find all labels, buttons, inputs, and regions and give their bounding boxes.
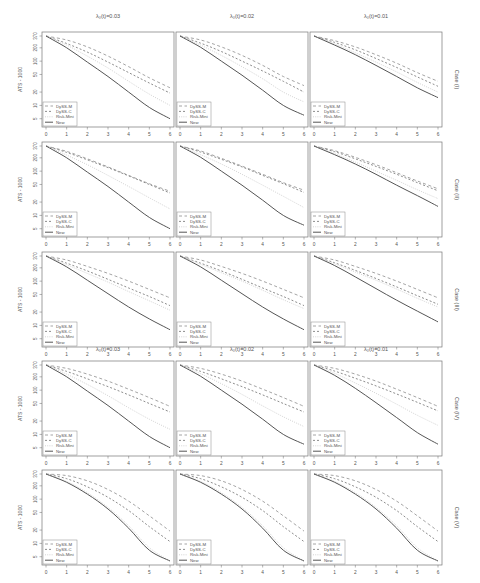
x-tick-label: 6 xyxy=(437,352,440,357)
legend-label: DySS-C xyxy=(324,329,340,334)
x-tick-label: 5 xyxy=(416,242,419,247)
x-tick-label: 3 xyxy=(241,132,244,137)
panel-r5-c3: 0123456Case (V)DySS-MDySS-CRisk-MiniNew xyxy=(310,470,460,575)
legend-label: DySS-M xyxy=(190,214,206,219)
x-tick-label: 5 xyxy=(416,352,419,357)
x-tick-label: 4 xyxy=(127,352,130,357)
legend-label: Risk-Mini xyxy=(190,552,208,557)
legend-label: DySS-M xyxy=(190,542,206,547)
legend-label: New xyxy=(324,230,333,235)
x-tick-label: 3 xyxy=(375,132,378,137)
y-tick-label: 200 xyxy=(33,154,38,162)
x-tick-label: 5 xyxy=(148,132,151,137)
legend: DySS-MDySS-CRisk-MiniNew xyxy=(43,212,77,236)
legend-label: DySS-C xyxy=(324,219,340,224)
x-tick-label: 0 xyxy=(313,242,316,247)
series-line-new xyxy=(314,256,438,322)
y-tick-label: 50 xyxy=(33,181,38,187)
legend: DySS-MDySS-CRisk-MiniNew xyxy=(177,322,211,346)
x-tick-label: 0 xyxy=(45,461,48,466)
x-tick-label: 3 xyxy=(375,461,378,466)
x-tick-label: 3 xyxy=(107,132,110,137)
legend-label: New xyxy=(190,230,199,235)
y-tick-label: 20 xyxy=(33,309,38,315)
legend-label: New xyxy=(190,340,199,345)
x-tick-label: 1 xyxy=(333,132,336,137)
legend-label: Risk-Mini xyxy=(190,224,208,229)
x-tick-label: 5 xyxy=(148,461,151,466)
panel-r3-c1: 01234563702001005020105ATS - 1000DySS-MD… xyxy=(17,252,174,357)
x-tick-label: 2 xyxy=(354,461,357,466)
x-tick-label: 5 xyxy=(148,242,151,247)
y-axis-label: ATS - 1000 xyxy=(17,287,23,312)
chart-grid: λ₀(t)=0.03λ₀(t)=0.02λ₀(t)=0.01λ₀(t)=0.03… xyxy=(0,0,480,583)
legend-label: Risk-Mini xyxy=(190,443,208,448)
y-axis-label: ATS - 1000 xyxy=(17,396,23,421)
y-tick-label: 100 xyxy=(33,57,38,65)
x-tick-label: 0 xyxy=(179,352,182,357)
x-tick-label: 1 xyxy=(65,242,68,247)
legend: DySS-MDySS-CRisk-MiniNew xyxy=(177,212,211,236)
panel-r5-c2: 0123456DySS-MDySS-CRisk-MiniNew xyxy=(176,470,308,575)
y-tick-label: 50 xyxy=(33,400,38,406)
x-tick-label: 3 xyxy=(241,461,244,466)
x-tick-label: 3 xyxy=(107,242,110,247)
x-tick-label: 1 xyxy=(199,570,202,575)
legend-label: Risk-Mini xyxy=(324,334,342,339)
y-tick-label: 5 xyxy=(33,555,38,558)
legend-label: DySS-C xyxy=(190,329,206,334)
x-tick-label: 0 xyxy=(179,242,182,247)
legend-label: New xyxy=(324,340,333,345)
y-tick-label: 200 xyxy=(33,373,38,381)
panel-r3-c2: 0123456DySS-MDySS-CRisk-MiniNew xyxy=(176,252,308,357)
legend: DySS-MDySS-CRisk-MiniNew xyxy=(177,102,211,126)
legend-label: Risk-Mini xyxy=(56,552,74,557)
column-title: λ₀(t)=0.03 xyxy=(96,13,120,19)
x-tick-label: 5 xyxy=(282,461,285,466)
x-tick-label: 2 xyxy=(86,461,89,466)
x-tick-label: 4 xyxy=(261,461,264,466)
y-tick-label: 20 xyxy=(33,199,38,205)
legend-label: DySS-M xyxy=(324,542,340,547)
legend-label: DySS-M xyxy=(190,433,206,438)
series-line-new xyxy=(314,36,438,98)
x-tick-label: 6 xyxy=(303,242,306,247)
legend: DySS-MDySS-CRisk-MiniNew xyxy=(311,322,345,346)
legend-label: Risk-Mini xyxy=(56,443,74,448)
series-line-risk-mini xyxy=(180,365,304,427)
y-tick-label: 100 xyxy=(33,167,38,175)
column-title: λ₀(t)=0.01 xyxy=(364,13,388,19)
x-tick-label: 4 xyxy=(261,570,264,575)
y-tick-label: 5 xyxy=(33,117,38,120)
legend-label: New xyxy=(324,558,333,563)
x-tick-label: 1 xyxy=(199,242,202,247)
x-tick-label: 0 xyxy=(45,352,48,357)
x-tick-label: 6 xyxy=(169,242,172,247)
legend: DySS-MDySS-CRisk-MiniNew xyxy=(311,431,345,455)
series-line-dyss-m xyxy=(46,474,170,531)
legend-label: New xyxy=(56,120,65,125)
series-line-risk-mini xyxy=(46,146,170,209)
legend-label: New xyxy=(56,558,65,563)
legend-label: DySS-C xyxy=(56,438,72,443)
x-tick-label: 2 xyxy=(354,352,357,357)
series-line-dyss-m xyxy=(180,146,304,190)
x-tick-label: 3 xyxy=(107,352,110,357)
x-tick-label: 6 xyxy=(169,352,172,357)
legend-label: DySS-M xyxy=(324,214,340,219)
x-tick-label: 2 xyxy=(354,132,357,137)
legend: DySS-MDySS-CRisk-MiniNew xyxy=(311,540,345,564)
x-tick-label: 5 xyxy=(416,132,419,137)
x-tick-label: 1 xyxy=(65,461,68,466)
legend: DySS-MDySS-CRisk-MiniNew xyxy=(177,431,211,455)
legend-label: DySS-C xyxy=(324,547,340,552)
legend: DySS-MDySS-CRisk-MiniNew xyxy=(311,212,345,236)
y-tick-label: 370 xyxy=(33,361,38,369)
x-tick-label: 6 xyxy=(169,132,172,137)
legend-label: New xyxy=(324,449,333,454)
series-line-risk-mini xyxy=(314,256,438,307)
x-tick-label: 5 xyxy=(148,570,151,575)
y-tick-label: 100 xyxy=(33,495,38,503)
y-axis-label: ATS - 1000 xyxy=(17,177,23,202)
x-tick-label: 5 xyxy=(282,242,285,247)
